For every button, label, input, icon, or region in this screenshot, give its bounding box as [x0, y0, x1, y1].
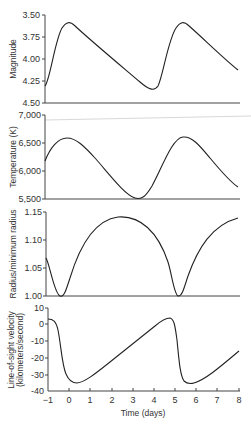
velocity-tick-label: -20	[31, 353, 44, 363]
velocity-tick-label: -10	[31, 336, 44, 346]
time-tick-label: 4	[151, 395, 156, 405]
velocity-y-label-line2: (kilometers/second)	[15, 313, 25, 387]
radius-tick-label: 1.15	[24, 207, 42, 217]
time-tick-label: 3	[130, 395, 135, 405]
magnitude-y-label: Magnitude	[8, 39, 18, 79]
time-tick-label: −1	[43, 395, 53, 405]
cepheid-light-curve-figure: 3.50 3.75 4.00 4.25 4.50 Magnitude 7,000…	[0, 0, 251, 427]
radius-tick-label: 1.00	[24, 291, 42, 301]
velocity-tick-label: 10	[34, 303, 44, 313]
temperature-curve	[45, 137, 238, 199]
radius-y-label: Radius/minimum radius	[8, 210, 18, 299]
magnitude-tick-label: 4.25	[22, 76, 40, 86]
magnitude-tick-label: 4.50	[22, 98, 40, 108]
velocity-panel: 10 0 -10 -20 -30 -40 −1 0 1 2 3 4 5 6 7 …	[6, 303, 242, 418]
velocity-tick-label: -30	[31, 370, 44, 380]
temperature-tick-label: 5,500	[18, 194, 41, 204]
radius-panel: 1.15 1.10 1.05 1.00 Radius/minimum radiu…	[8, 207, 240, 301]
time-tick-label: 8	[236, 395, 241, 405]
magnitude-tick-label: 3.75	[22, 32, 40, 42]
radius-curve	[46, 217, 238, 296]
radius-tick-label: 1.05	[24, 263, 42, 273]
temperature-tick-label: 6,000	[18, 166, 41, 176]
temperature-tick-label: 7,000	[18, 110, 41, 120]
velocity-tick-label: 0	[39, 319, 44, 329]
magnitude-curve	[45, 23, 238, 90]
scan-artifact-line	[45, 116, 251, 120]
time-tick-label: 6	[193, 395, 198, 405]
radius-tick-label: 1.10	[24, 235, 42, 245]
magnitude-tick-label: 3.50	[22, 10, 40, 20]
temperature-panel: 7,000 6,500 6,000 5,500 Temperature (K)	[8, 110, 240, 204]
magnitude-panel: 3.50 3.75 4.00 4.25 4.50 Magnitude	[8, 10, 240, 108]
time-tick-label: 1	[87, 395, 92, 405]
time-tick-label: 7	[214, 395, 219, 405]
temperature-tick-label: 6,500	[18, 138, 41, 148]
temperature-y-label: Temperature (K)	[8, 126, 18, 188]
time-tick-label: 2	[109, 395, 114, 405]
time-tick-label: 0	[66, 395, 71, 405]
magnitude-tick-label: 4.00	[22, 54, 40, 64]
time-tick-label: 5	[172, 395, 177, 405]
velocity-curve	[48, 318, 239, 384]
time-x-label: Time (days)	[121, 408, 166, 418]
